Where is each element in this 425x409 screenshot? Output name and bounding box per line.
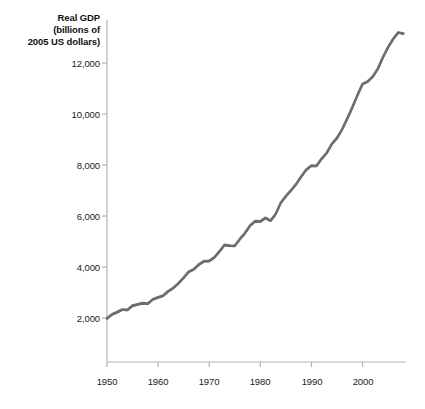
axes-group xyxy=(102,20,406,367)
real-gdp-line xyxy=(107,32,403,318)
x-axis-ticks xyxy=(107,362,363,367)
real-gdp-line-shadow xyxy=(107,33,403,319)
data-series-group xyxy=(107,32,403,319)
chart-canvas xyxy=(0,0,425,409)
y-axis-ticks xyxy=(102,63,107,318)
real-gdp-chart: Real GDP (billions of 2005 US dollars) 1… xyxy=(0,0,425,409)
